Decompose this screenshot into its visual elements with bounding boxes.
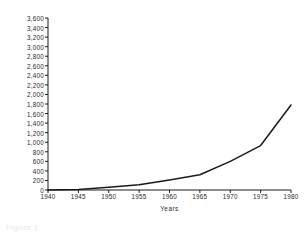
y-tick-label: 1,600 xyxy=(27,110,44,117)
x-tick-label: 1945 xyxy=(71,193,86,200)
y-tick-label: 2,000 xyxy=(27,91,44,98)
y-tick-label: 200 xyxy=(33,177,44,184)
y-tick-label: 2,400 xyxy=(27,72,44,79)
figure-caption: Figure 1 xyxy=(6,223,39,232)
chart-svg xyxy=(48,18,291,190)
y-tick-label: 2,200 xyxy=(27,81,44,88)
y-tick-label: 3,000 xyxy=(27,43,44,50)
y-tick-label: 800 xyxy=(33,148,44,155)
y-tick-label: 3,200 xyxy=(27,34,44,41)
figure-line-chart: Thousands of students 02004006008001,000… xyxy=(0,0,307,232)
x-tick-label: 1950 xyxy=(101,193,116,200)
y-tick-label: 1,400 xyxy=(27,120,44,127)
axis-lines xyxy=(48,18,291,190)
y-tick-label: 1,800 xyxy=(27,101,44,108)
y-tick-label: 1,200 xyxy=(27,129,44,136)
y-tick-label: 1,000 xyxy=(27,139,44,146)
x-axis-title: Years xyxy=(48,205,291,212)
y-tick-label: 3,600 xyxy=(27,15,44,22)
x-tick-label: 1975 xyxy=(253,193,268,200)
y-tick-label: 2,600 xyxy=(27,62,44,69)
axis-ticks xyxy=(45,18,291,193)
data-series-line xyxy=(48,105,291,190)
y-tick-label: 3,400 xyxy=(27,24,44,31)
plot-area: 02004006008001,0001,2001,4001,6001,8002,… xyxy=(48,18,291,190)
x-tick-label: 1960 xyxy=(162,193,177,200)
x-tick-label: 1980 xyxy=(283,193,298,200)
y-tick-label: 2,800 xyxy=(27,53,44,60)
y-tick-label: 600 xyxy=(33,158,44,165)
x-tick-label: 1965 xyxy=(192,193,207,200)
x-tick-label: 1955 xyxy=(132,193,147,200)
x-tick-label: 1970 xyxy=(223,193,238,200)
x-tick-label: 1940 xyxy=(40,193,55,200)
y-tick-label: 400 xyxy=(33,167,44,174)
